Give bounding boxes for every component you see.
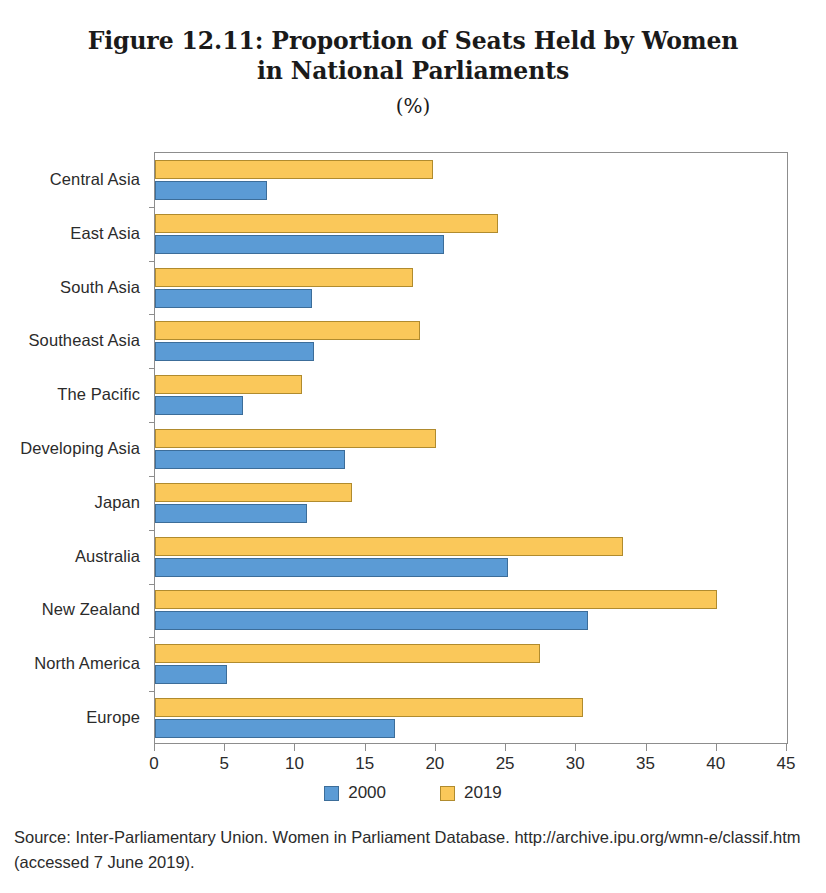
category-label: Southeast Asia bbox=[29, 331, 140, 350]
category-label: The Pacific bbox=[57, 385, 140, 404]
bar-2000 bbox=[155, 342, 314, 361]
x-axis-tick-label: 30 bbox=[566, 754, 585, 774]
bar-2000 bbox=[155, 611, 588, 630]
x-axis-tick bbox=[505, 744, 506, 751]
bar-2000 bbox=[155, 450, 345, 469]
bar-2019 bbox=[155, 375, 302, 394]
category-label: North America bbox=[34, 654, 140, 673]
x-axis-tick bbox=[154, 744, 155, 751]
plot-area bbox=[154, 152, 788, 744]
bar-2000 bbox=[155, 719, 395, 738]
category-tick bbox=[149, 422, 155, 423]
bar-2000 bbox=[155, 558, 508, 577]
source-note: Source: Inter-Parliamentary Union. Women… bbox=[14, 825, 814, 875]
bar-2000 bbox=[155, 181, 267, 200]
figure-title-line-1: Figure 12.11: Proportion of Seats Held b… bbox=[0, 26, 826, 56]
category-tick bbox=[149, 207, 155, 208]
x-axis-tick bbox=[646, 744, 647, 751]
category-label: Developing Asia bbox=[20, 439, 140, 458]
category-label: Europe bbox=[86, 708, 140, 727]
bar-2019 bbox=[155, 268, 413, 287]
bar-2019 bbox=[155, 644, 540, 663]
bar-2000 bbox=[155, 504, 307, 523]
category-label: Australia bbox=[75, 546, 140, 565]
category-tick bbox=[149, 368, 155, 369]
bar-2019 bbox=[155, 698, 583, 717]
category-label: Central Asia bbox=[50, 169, 140, 188]
category-tick bbox=[149, 637, 155, 638]
x-axis-tick-label: 25 bbox=[496, 754, 515, 774]
x-axis-tick bbox=[716, 744, 717, 751]
bar-2019 bbox=[155, 537, 623, 556]
legend-swatch-icon bbox=[324, 786, 339, 801]
category-tick bbox=[149, 314, 155, 315]
figure-page: Figure 12.11: Proportion of Seats Held b… bbox=[0, 0, 826, 893]
category-tick bbox=[149, 261, 155, 262]
bar-2000 bbox=[155, 665, 227, 684]
x-axis-tick-label: 15 bbox=[355, 754, 374, 774]
x-axis-tick bbox=[435, 744, 436, 751]
category-label: South Asia bbox=[60, 277, 140, 296]
figure-title-unit: (%) bbox=[0, 91, 826, 121]
x-axis-tick-label: 10 bbox=[285, 754, 304, 774]
x-axis-tick bbox=[294, 744, 295, 751]
figure-title-line-2: in National Parliaments bbox=[0, 56, 826, 86]
x-axis-tick-label: 45 bbox=[777, 754, 796, 774]
bar-2019 bbox=[155, 429, 436, 448]
category-tick bbox=[149, 530, 155, 531]
category-label: Japan bbox=[95, 492, 140, 511]
bar-2000 bbox=[155, 396, 243, 415]
legend-swatch-icon bbox=[440, 786, 455, 801]
bar-2019 bbox=[155, 590, 717, 609]
x-axis-tick-label: 5 bbox=[219, 754, 228, 774]
bar-2019 bbox=[155, 160, 433, 179]
category-tick bbox=[149, 584, 155, 585]
x-axis-tick bbox=[365, 744, 366, 751]
x-axis-tick-label: 0 bbox=[149, 754, 158, 774]
legend-label: 2019 bbox=[464, 783, 502, 803]
legend-item: 2019 bbox=[440, 783, 502, 803]
x-axis-tick bbox=[786, 744, 787, 751]
category-tick bbox=[149, 691, 155, 692]
chart: Central AsiaEast AsiaSouth AsiaSoutheast… bbox=[0, 152, 826, 752]
x-axis-tick-label: 20 bbox=[425, 754, 444, 774]
x-axis-tick-label: 40 bbox=[706, 754, 725, 774]
legend-label: 2000 bbox=[348, 783, 386, 803]
bar-2000 bbox=[155, 235, 444, 254]
category-label: New Zealand bbox=[42, 600, 140, 619]
category-axis-labels: Central AsiaEast AsiaSouth AsiaSoutheast… bbox=[0, 152, 148, 744]
x-axis-tick bbox=[224, 744, 225, 751]
category-tick bbox=[149, 476, 155, 477]
figure-title-block: Figure 12.11: Proportion of Seats Held b… bbox=[0, 26, 826, 121]
bar-2000 bbox=[155, 289, 312, 308]
bar-2019 bbox=[155, 483, 352, 502]
x-axis-tick bbox=[575, 744, 576, 751]
bar-2019 bbox=[155, 321, 420, 340]
bar-2019 bbox=[155, 214, 498, 233]
x-axis-tick-label: 35 bbox=[636, 754, 655, 774]
chart-legend: 20002019 bbox=[0, 783, 826, 803]
category-label: East Asia bbox=[70, 223, 140, 242]
legend-item: 2000 bbox=[324, 783, 386, 803]
